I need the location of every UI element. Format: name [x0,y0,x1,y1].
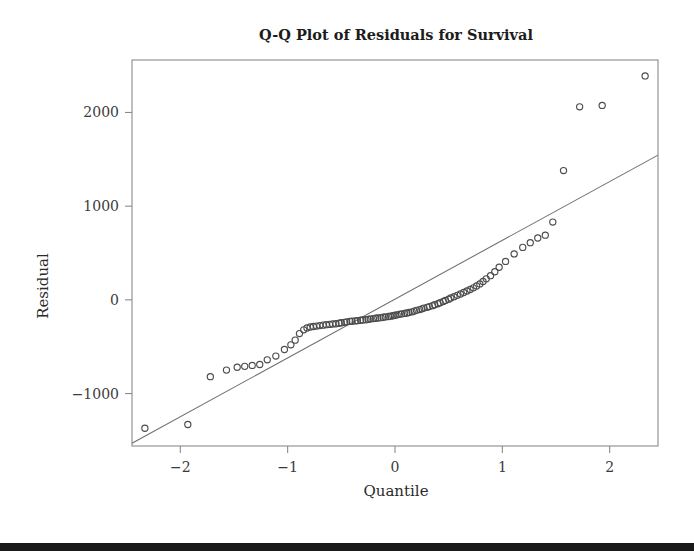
data-point [577,104,583,110]
data-point [550,219,556,225]
qq-plot-figure: Q-Q Plot of Residuals for Survival −2−10… [0,0,694,543]
x-tick-label: 2 [605,459,614,475]
x-tick-label: 1 [498,459,507,475]
data-point [249,362,255,368]
data-point [207,374,213,380]
x-axis-label: Quantile [363,482,428,500]
data-point [502,258,508,264]
data-point [242,363,248,369]
reference-line-group [132,155,658,443]
data-point [527,240,533,246]
y-axis-ticks: −1000010002000 [72,104,132,401]
x-tick-label: −1 [277,459,298,475]
data-point [142,425,148,431]
data-point [234,364,240,370]
reference-line [132,155,658,443]
data-point [281,346,287,352]
y-tick-label: −1000 [72,386,119,402]
x-axis-ticks: −2−1012 [170,446,614,475]
data-point [599,102,605,108]
qq-plot-svg: Q-Q Plot of Residuals for Survival −2−10… [0,0,694,543]
data-point [560,167,566,173]
data-point [257,361,263,367]
data-point [496,264,502,270]
data-point [642,73,648,79]
data-point [292,337,298,343]
data-point [223,367,229,373]
y-tick-label: 0 [110,292,119,308]
y-axis-label: Residual [34,253,52,319]
data-point [511,251,517,257]
chart-title: Q-Q Plot of Residuals for Survival [259,26,533,43]
data-point [520,244,526,250]
data-point [535,235,541,241]
y-tick-label: 2000 [83,104,119,120]
x-tick-label: −2 [170,459,191,475]
data-point [542,232,548,238]
y-tick-label: 1000 [83,198,119,214]
data-point [185,421,191,427]
data-point [273,353,279,359]
bottom-bar [0,543,694,551]
data-points-group [142,73,648,431]
x-tick-label: 0 [391,459,400,475]
plot-frame [132,60,658,446]
data-point [264,357,270,363]
